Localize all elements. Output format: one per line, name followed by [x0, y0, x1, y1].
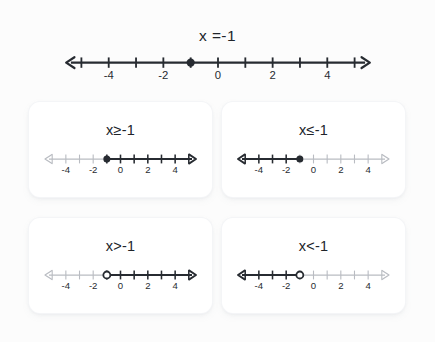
point-marker-open — [296, 272, 303, 279]
tick-label: 0 — [118, 280, 123, 291]
card-title: x<-1 — [222, 238, 405, 254]
tick-label: 0 — [215, 69, 221, 81]
answer-card-less-equal[interactable]: x≤-1 -4-2024 — [222, 102, 405, 197]
tick-label: 2 — [269, 69, 275, 81]
tick-label: -2 — [89, 280, 98, 291]
card-title: x>-1 — [29, 238, 212, 254]
number-line-less-equal: -4-2024 — [230, 150, 397, 184]
answer-card-less[interactable]: x<-1 -4-2024 — [222, 218, 405, 313]
tick-label: 2 — [145, 164, 150, 175]
number-line: -4-2024 — [37, 150, 204, 184]
number-line-greater-equal: -4-2024 — [37, 150, 204, 184]
tick-label: 2 — [338, 164, 343, 175]
tick-label: 4 — [172, 280, 178, 291]
tick-label: -2 — [282, 280, 291, 291]
answer-card-greater[interactable]: x>-1 -4-2024 — [29, 218, 212, 313]
tick-label: 0 — [311, 164, 316, 175]
point-marker-closed — [296, 156, 303, 163]
tick-label: 0 — [118, 164, 123, 175]
page-title: x =-1 — [0, 27, 435, 45]
point-marker-closed — [103, 156, 110, 163]
tick-label: 4 — [172, 164, 178, 175]
tick-label: -2 — [282, 164, 291, 175]
number-line: -4-2024 — [230, 150, 397, 184]
tick-label: -4 — [62, 280, 71, 291]
tick-label: 4 — [324, 69, 330, 81]
answer-card-greater-equal[interactable]: x≥-1 -4-2024 — [29, 102, 212, 197]
number-line: -4-2024 — [37, 266, 204, 300]
tick-label: 4 — [365, 164, 371, 175]
tick-label: -2 — [89, 164, 98, 175]
number-line-equation: -4-2024 — [58, 52, 378, 86]
tick-label: -2 — [158, 69, 168, 81]
point-marker-closed — [187, 58, 195, 66]
tick-label: 2 — [145, 280, 150, 291]
tick-label: -4 — [255, 280, 264, 291]
number-line-greater: -4-2024 — [37, 266, 204, 300]
tick-label: -4 — [255, 164, 264, 175]
card-title: x≥-1 — [29, 122, 212, 138]
card-title: x≤-1 — [222, 122, 405, 138]
tick-label: 2 — [338, 280, 343, 291]
tick-label: -4 — [104, 69, 114, 81]
number-line: -4-2024 — [58, 52, 378, 86]
tick-label: 0 — [311, 280, 316, 291]
tick-label: -4 — [62, 164, 71, 175]
tick-label: 4 — [365, 280, 371, 291]
number-line-less: -4-2024 — [230, 266, 397, 300]
header-figure: x =-1 -4-2024 — [0, 0, 435, 96]
point-marker-open — [103, 272, 110, 279]
number-line: -4-2024 — [230, 266, 397, 300]
answer-choice-grid: x≥-1 -4-2024 x≤-1 -4-2024 x>-1 -4-2024 x… — [29, 102, 406, 313]
